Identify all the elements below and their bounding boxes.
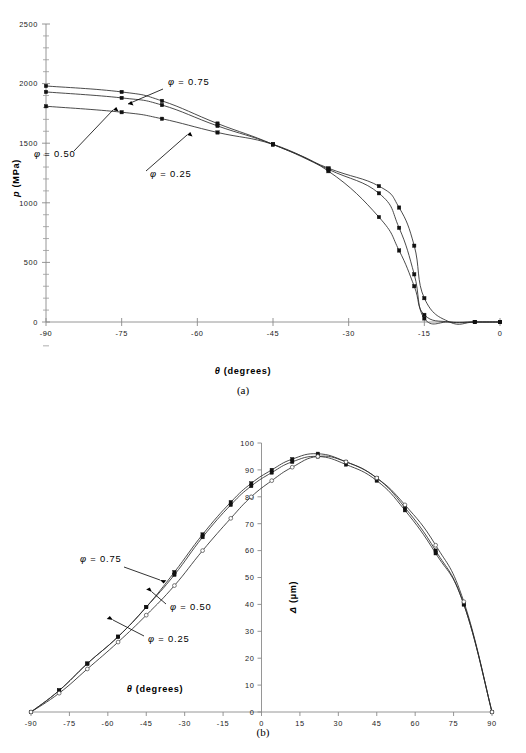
data-point: [423, 317, 426, 320]
data-point: [160, 99, 163, 102]
data-point: [160, 117, 163, 120]
series-annotation-label: φ = 0.75: [80, 553, 121, 564]
panel-a-x-axis-title: θ (degrees): [215, 366, 272, 376]
data-point: [498, 320, 501, 323]
data-point: [327, 167, 330, 170]
data-point: [270, 471, 273, 474]
data-point: [85, 667, 89, 671]
data-point: [120, 111, 123, 114]
data-point: [377, 215, 380, 218]
panel-b-x-tick-label: -30: [178, 719, 190, 728]
data-point: [44, 90, 47, 93]
data-point: [44, 105, 47, 108]
panel-a-x-tick-label: -15: [418, 329, 430, 338]
panel-b-x-tick-label: 75: [449, 719, 458, 728]
data-point: [86, 662, 89, 665]
data-point: [291, 460, 294, 463]
panel-b-y-tick-label: 70: [245, 520, 254, 529]
panel-a-x-tick-label: -75: [115, 329, 127, 338]
data-point: [413, 273, 416, 276]
panel-b-x-tick-label: -75: [63, 719, 75, 728]
panel-a-y-tick-label: 0: [33, 318, 38, 327]
panel-b-x-tick-label: -90: [25, 719, 37, 728]
data-point: [145, 605, 148, 608]
data-point: [249, 495, 253, 499]
panel-b-y-tick-label: 90: [245, 466, 254, 475]
data-point: [201, 549, 205, 553]
data-point: [57, 691, 61, 695]
panel-b-x-axis-title: θ (degrees): [127, 684, 184, 694]
data-point: [173, 573, 176, 576]
scientific-figure: 05001000150020002500-90-75-60-45-30-150 …: [0, 0, 526, 753]
data-point: [413, 285, 416, 288]
data-point: [423, 313, 426, 316]
panel-b-y-axis-title: Δ (µm): [288, 581, 298, 615]
figure-root: 05001000150020002500-90-75-60-45-30-150 …: [0, 0, 526, 753]
data-point: [120, 90, 123, 93]
panel-b-y-tick-label: 50: [245, 573, 254, 582]
panel-b-x-tick-label: -15: [217, 719, 229, 728]
series-annotation-label: φ = 0.25: [148, 633, 189, 644]
data-point: [201, 535, 204, 538]
panel-b-y-tick-label: 100: [240, 439, 254, 448]
panel-b-y-tick-label: 10: [245, 681, 254, 690]
data-point: [434, 543, 438, 547]
data-point: [397, 226, 400, 229]
data-point: [434, 552, 437, 555]
data-point: [270, 479, 274, 483]
data-point: [290, 465, 294, 469]
data-point: [473, 320, 476, 323]
panel-b-x-tick-label: -60: [102, 719, 114, 728]
data-point: [216, 124, 219, 127]
data-point: [462, 600, 466, 604]
data-point: [160, 103, 163, 106]
figure-background: [0, 0, 526, 753]
data-point: [403, 503, 407, 507]
data-point: [250, 484, 253, 487]
data-point: [144, 613, 148, 617]
data-point: [120, 96, 123, 99]
panel-b-x-tick-label: 60: [410, 719, 419, 728]
data-point: [344, 460, 348, 464]
series-annotation-label: φ = 0.50: [34, 148, 75, 159]
data-point: [403, 509, 406, 512]
data-point: [116, 635, 119, 638]
data-point: [423, 296, 426, 299]
panel-b-caption: (b): [257, 726, 270, 739]
series-annotation-label: φ = 0.25: [150, 168, 191, 179]
data-point: [29, 710, 33, 714]
panel-a-y-tick-label: 1000: [19, 199, 38, 208]
data-point: [316, 455, 320, 459]
panel-b-y-tick-label: 60: [245, 546, 254, 555]
data-point: [216, 131, 219, 134]
panel-a-x-tick-label: -90: [40, 329, 52, 338]
panel-a-x-tick-label: -60: [191, 329, 203, 338]
data-point: [397, 249, 400, 252]
series-annotation-label: φ = 0.75: [168, 76, 209, 87]
panel-a-x-tick-label: -45: [267, 329, 279, 338]
data-point: [44, 84, 47, 87]
panel-b-y-tick-label: 0: [250, 708, 255, 717]
panel-a-y-tick-label: 2500: [19, 20, 38, 29]
panel-b-y-tick-label: 20: [245, 654, 254, 663]
data-point: [377, 192, 380, 195]
panel-a-caption: (a): [237, 384, 250, 397]
data-point: [173, 584, 177, 588]
panel-b-x-tick-label: -45: [140, 719, 152, 728]
data-point: [490, 710, 494, 714]
panel-b-y-tick-label: 30: [245, 627, 254, 636]
panel-a-y-tick-label: 2000: [19, 79, 38, 88]
data-point: [116, 640, 120, 644]
panel-a-y-axis-title: p (MPa): [11, 159, 21, 198]
panel-a-x-tick-label: 0: [498, 329, 503, 338]
data-point: [229, 503, 232, 506]
panel-a-y-tick-label: 1500: [19, 139, 38, 148]
panel-b-y-tick-label: 40: [245, 600, 254, 609]
data-point: [229, 516, 233, 520]
panel-b-x-tick-label: 90: [487, 719, 496, 728]
panel-a-x-tick-label: -30: [342, 329, 354, 338]
data-point: [413, 244, 416, 247]
panel-b-x-tick-label: 30: [334, 719, 343, 728]
panel-b-x-tick-label: 45: [372, 719, 381, 728]
data-point: [377, 184, 380, 187]
